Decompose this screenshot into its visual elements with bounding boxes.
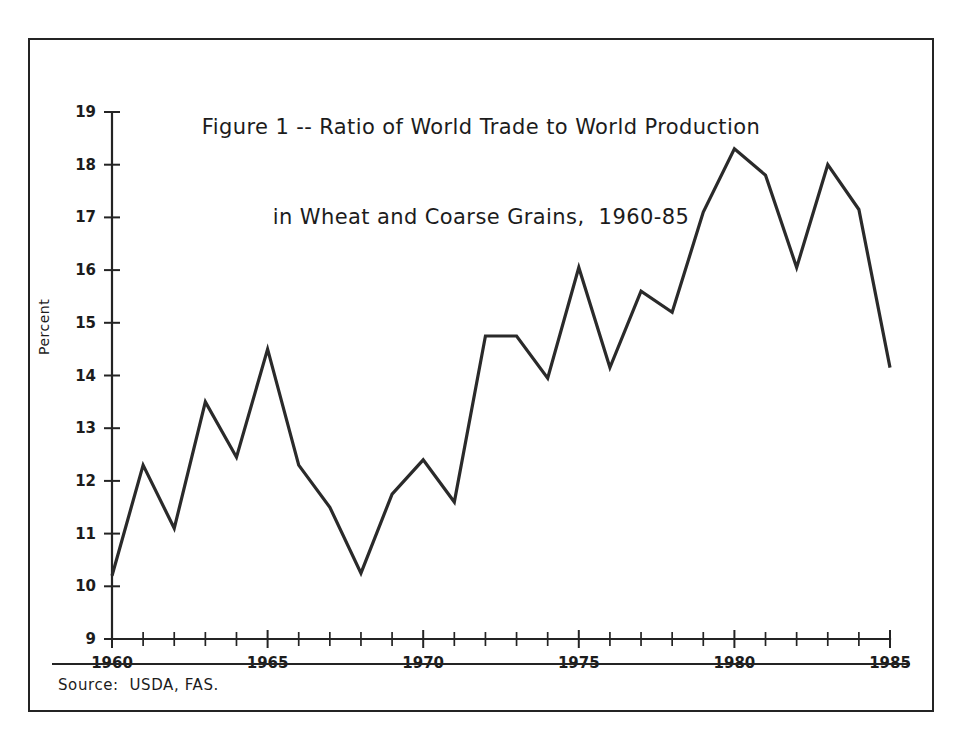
y-tick-label-18: 18 bbox=[75, 156, 96, 174]
source-note: Source: USDA, FAS. bbox=[58, 676, 219, 694]
plot-area: 910111213141516171819 196019651970197519… bbox=[28, 38, 934, 712]
figure-root: Figure 1 -- Ratio of World Trade to Worl… bbox=[0, 0, 964, 752]
y-tick-label-12: 12 bbox=[75, 472, 96, 490]
data-series-group bbox=[112, 149, 890, 576]
source-divider bbox=[52, 663, 910, 665]
y-tick-label-9: 9 bbox=[86, 630, 96, 648]
data-line-series-0 bbox=[112, 149, 890, 576]
x-axis: 196019651970197519801985 bbox=[91, 630, 911, 672]
y-tick-label-16: 16 bbox=[75, 261, 96, 279]
y-tick-label-15: 15 bbox=[75, 314, 96, 332]
y-tick-label-19: 19 bbox=[75, 103, 96, 121]
y-tick-label-13: 13 bbox=[75, 419, 96, 437]
chart-canvas: 910111213141516171819 196019651970197519… bbox=[28, 38, 934, 712]
y-tick-label-11: 11 bbox=[75, 525, 96, 543]
y-tick-label-10: 10 bbox=[75, 577, 96, 595]
y-tick-label-14: 14 bbox=[75, 367, 96, 385]
y-tick-label-17: 17 bbox=[75, 208, 96, 226]
